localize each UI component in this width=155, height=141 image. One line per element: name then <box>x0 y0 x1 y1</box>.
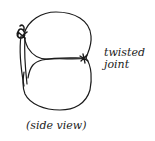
figure-caption: (side view) <box>26 120 86 132</box>
joint-label-line2: joint <box>104 59 154 71</box>
joint-label: twisted joint <box>104 47 154 71</box>
bottom-loop <box>23 58 91 110</box>
middle-strand <box>28 58 84 78</box>
top-loop <box>24 12 91 59</box>
left-knot <box>17 25 27 38</box>
